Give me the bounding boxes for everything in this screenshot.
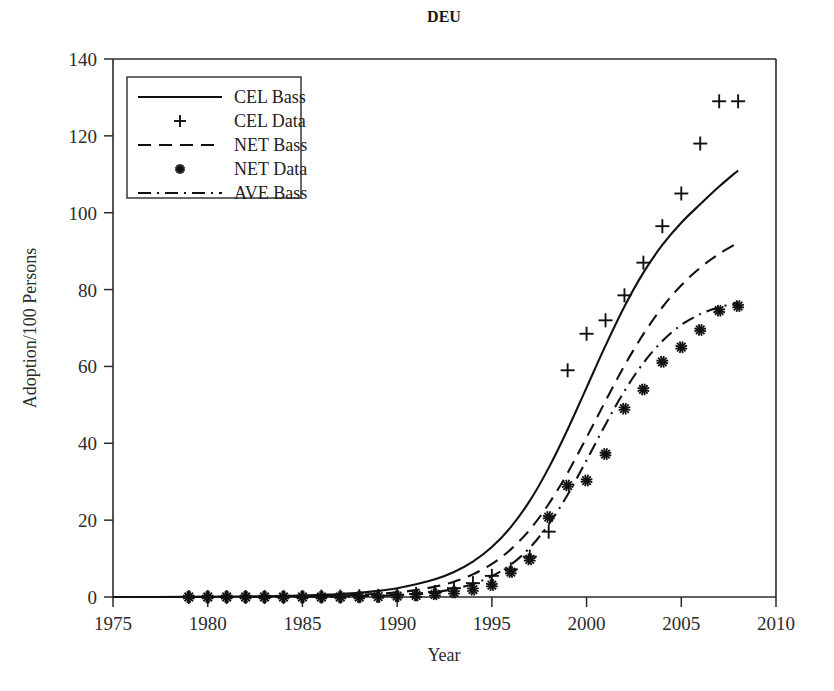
data-point-marker <box>542 525 556 539</box>
legend-label: AVE Bass <box>234 183 307 203</box>
series-net-data <box>183 300 744 602</box>
chart-title: DEU <box>427 8 461 25</box>
series-net-bass <box>113 243 738 597</box>
y-axis-label: Adoption/100 Persons <box>20 248 40 409</box>
y-tick-label: 40 <box>78 433 97 454</box>
y-tick-label: 140 <box>69 49 98 70</box>
data-point-marker <box>581 475 593 487</box>
x-tick-label: 2010 <box>757 613 795 634</box>
x-tick-label: 1995 <box>473 613 511 634</box>
data-point-marker <box>599 313 613 327</box>
y-tick-label: 20 <box>78 510 97 531</box>
data-point-marker <box>675 341 687 353</box>
series-ave-bass <box>113 303 738 597</box>
chart-figure: DEU 020406080100120140 19751980198519901… <box>0 0 834 691</box>
chart-legend: CEL BassCEL DataNET BassNET DataAVE Bass <box>127 77 307 203</box>
data-point-marker <box>713 305 725 317</box>
x-tick-label: 1990 <box>378 613 416 634</box>
x-tick-label: 2000 <box>568 613 606 634</box>
y-tick-label: 100 <box>69 203 98 224</box>
x-axis-label: Year <box>427 645 460 665</box>
data-point-marker <box>674 187 688 201</box>
data-point-marker <box>562 480 574 492</box>
data-point-marker <box>655 219 669 233</box>
y-tick-label: 0 <box>88 587 98 608</box>
legend-label: NET Bass <box>234 135 307 155</box>
y-tick-label: 80 <box>78 280 97 301</box>
data-point-marker <box>580 327 594 341</box>
x-tick-label: 2005 <box>662 613 700 634</box>
y-tick-label: 120 <box>69 126 98 147</box>
data-point-marker <box>638 384 650 396</box>
x-tick-label: 1975 <box>94 613 132 634</box>
x-tick-label: 1980 <box>189 613 227 634</box>
data-point-marker <box>619 403 631 415</box>
data-point-marker <box>657 356 669 368</box>
series-path <box>113 243 738 597</box>
legend-label: NET Data <box>234 159 307 179</box>
x-tick-label: 1985 <box>283 613 321 634</box>
x-axis-ticks: 19751980198519901995200020052010 <box>94 597 795 634</box>
legend-label: CEL Data <box>234 111 306 131</box>
y-tick-label: 60 <box>78 356 97 377</box>
y-axis-ticks: 020406080100120140 <box>69 49 114 608</box>
data-point-marker <box>732 300 744 312</box>
data-point-marker <box>731 94 745 108</box>
series-path <box>113 303 738 597</box>
chart-svg: DEU 020406080100120140 19751980198519901… <box>0 0 834 691</box>
data-point-marker <box>693 137 707 151</box>
data-point-marker <box>600 448 612 460</box>
data-point-marker <box>636 256 650 270</box>
data-point-marker <box>712 94 726 108</box>
data-point-marker <box>617 288 631 302</box>
data-point-marker <box>561 363 575 377</box>
star-marker-icon <box>175 164 185 174</box>
legend-label: CEL Bass <box>234 87 306 107</box>
data-point-marker <box>694 324 706 336</box>
